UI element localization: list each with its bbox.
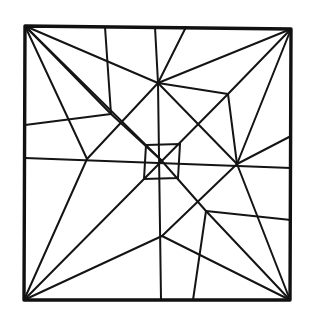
crease-line xyxy=(24,179,144,300)
crease-pattern-diagram xyxy=(0,0,314,323)
crease-line xyxy=(24,159,87,300)
crease-line xyxy=(161,160,206,211)
crease-line xyxy=(111,114,161,160)
crease-line xyxy=(237,136,291,164)
crease-line xyxy=(24,236,162,300)
crease-line xyxy=(25,26,158,83)
crease-line xyxy=(237,29,291,164)
crease-line xyxy=(158,83,161,300)
crease-line xyxy=(158,27,186,83)
crease-line xyxy=(228,94,237,164)
crease-line xyxy=(25,158,291,168)
crease-line xyxy=(155,27,158,83)
crease-line xyxy=(206,211,290,300)
crease-line xyxy=(206,211,291,220)
crease-line xyxy=(237,164,290,300)
crease-line xyxy=(25,114,111,125)
crease-line xyxy=(144,94,228,179)
crease-line xyxy=(158,29,291,83)
crease-line xyxy=(162,236,290,300)
crease-line xyxy=(105,27,111,114)
crease-line xyxy=(228,29,291,94)
crease-line xyxy=(25,26,87,159)
crease-lines xyxy=(24,26,291,300)
